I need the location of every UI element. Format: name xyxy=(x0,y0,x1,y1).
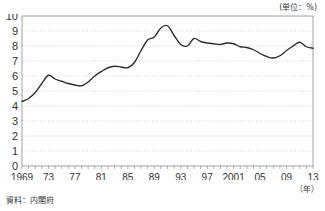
x-axis-tick-label: 81 xyxy=(96,172,108,180)
x-axis-tick-label: 85 xyxy=(122,172,134,180)
x-axis-tick-label: 77 xyxy=(69,172,81,180)
x-axis-tick-label: 97 xyxy=(202,172,214,180)
line-chart-svg: 012345678910 196973778185899397200105091… xyxy=(0,14,325,180)
source-note: 資料：内閣府 xyxy=(6,196,54,206)
y-axis-tick-label: 6 xyxy=(12,70,18,82)
y-axis-tick-label: 9 xyxy=(12,25,18,37)
y-axis-tick-label: 1 xyxy=(12,145,18,157)
unit-label: (単位：%) xyxy=(279,3,317,13)
x-axis-tick-label: 13 xyxy=(307,172,319,180)
x-axis-tick-label: 05 xyxy=(255,172,267,180)
y-axis-tick-label: 3 xyxy=(12,115,18,127)
y-axis-tick-label: 0 xyxy=(12,160,18,172)
x-axis-tick-label: 1969 xyxy=(11,172,34,180)
y-axis-tick-label: 2 xyxy=(12,130,18,142)
x-axis-tick-label: 73 xyxy=(43,172,55,180)
cropped-header-text xyxy=(6,0,246,6)
y-axis-tick-label: 8 xyxy=(12,40,18,52)
x-axis-tick-label: 93 xyxy=(175,172,187,180)
y-axis-tick-labels: 012345678910 xyxy=(6,14,18,172)
series-line xyxy=(22,25,313,101)
x-axis-tick-label: 89 xyxy=(149,172,161,180)
y-axis-tick-label: 10 xyxy=(6,14,18,22)
x-axis-tick-label: 09 xyxy=(281,172,293,180)
x-axis-tick-labels: 1969737781858993972001050913 xyxy=(11,172,319,180)
chart-figure: (単位：%) 012345678910 19697377818589939720… xyxy=(0,0,325,211)
plot-area: 012345678910 196973778185899397200105091… xyxy=(0,14,325,180)
y-axis-tick-label: 5 xyxy=(12,85,18,97)
x-axis-tick-label: 2001 xyxy=(223,172,246,180)
y-axis-tick-label: 4 xyxy=(12,100,18,112)
gridlines xyxy=(22,31,313,151)
x-axis-ticks xyxy=(22,166,313,169)
y-axis-tick-label: 7 xyxy=(12,55,18,67)
x-axis-unit-label: （年） xyxy=(295,185,319,195)
